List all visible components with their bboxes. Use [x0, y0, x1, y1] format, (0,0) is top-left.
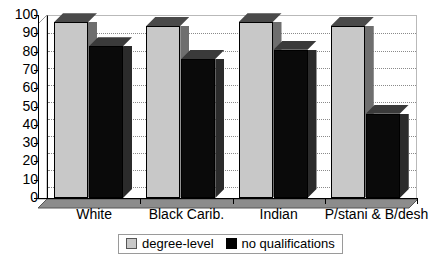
bar-no-qualifications-indian [274, 50, 308, 198]
y-tick-mark [34, 180, 39, 181]
y-tick-mark [34, 70, 39, 71]
x-tick-mark [417, 199, 418, 204]
bar-no-qualifications-black-carib- [181, 59, 215, 198]
bar-front-face [181, 59, 215, 198]
legend-item-no-qualifications: no qualifications [226, 237, 335, 250]
legend-label-no-qualifications: no qualifications [242, 237, 335, 250]
y-tick-mark [34, 52, 39, 53]
legend-item-degree-level: degree-level [126, 237, 214, 250]
x-tick-label: Indian [233, 205, 325, 223]
bar-front-face [274, 50, 308, 198]
legend-label-degree-level: degree-level [142, 237, 214, 250]
legend-swatch-icon-degree-level [126, 238, 137, 249]
y-tick-mark [34, 107, 39, 108]
y-tick-mark [34, 33, 39, 34]
x-tick-label: P/stani & B/deshi [325, 205, 417, 223]
chart-legend: degree-level no qualifications [118, 234, 343, 254]
bar-front-face [54, 22, 88, 198]
y-tick-mark [34, 125, 39, 126]
y-tick-mark [34, 15, 39, 16]
bar-chart: 0102030405060708090100 [0, 0, 428, 268]
y-tick-mark [34, 161, 39, 162]
y-tick-mark [34, 143, 39, 144]
bar-side-face [308, 50, 317, 198]
y-tick-mark [34, 198, 39, 199]
bar-side-face [123, 46, 132, 198]
y-tick-mark [34, 88, 39, 89]
legend-swatch-icon-no-qualifications [226, 238, 237, 249]
bar-degree-level-black-carib- [146, 26, 180, 198]
bar-top-face [239, 13, 282, 22]
x-tick-label: Black Carib. [140, 205, 232, 223]
bar-degree-level-indian [239, 22, 273, 198]
bar-front-face [366, 114, 400, 198]
x-tick-mark [325, 199, 326, 204]
bar-degree-level-p-stani-b-deshi [331, 26, 365, 198]
bar-top-face [146, 17, 189, 26]
bar-top-face [54, 13, 97, 22]
x-tick-label: White [48, 205, 140, 223]
bar-front-face [239, 22, 273, 198]
bar-no-qualifications-white [89, 46, 123, 198]
x-tick-mark [233, 199, 234, 204]
bar-degree-level-white [54, 22, 88, 198]
bar-series-container [0, 0, 428, 226]
bar-front-face [331, 26, 365, 198]
bar-top-face [331, 17, 374, 26]
bar-no-qualifications-p-stani-b-deshi [366, 114, 400, 198]
bar-front-face [146, 26, 180, 198]
x-axis-labels: WhiteBlack Carib.IndianP/stani & B/deshi [0, 205, 428, 227]
bar-side-face [400, 114, 409, 198]
bar-side-face [215, 59, 224, 198]
bar-front-face [89, 46, 123, 198]
plot-area: 0102030405060708090100 [0, 0, 428, 226]
x-tick-mark [140, 199, 141, 204]
